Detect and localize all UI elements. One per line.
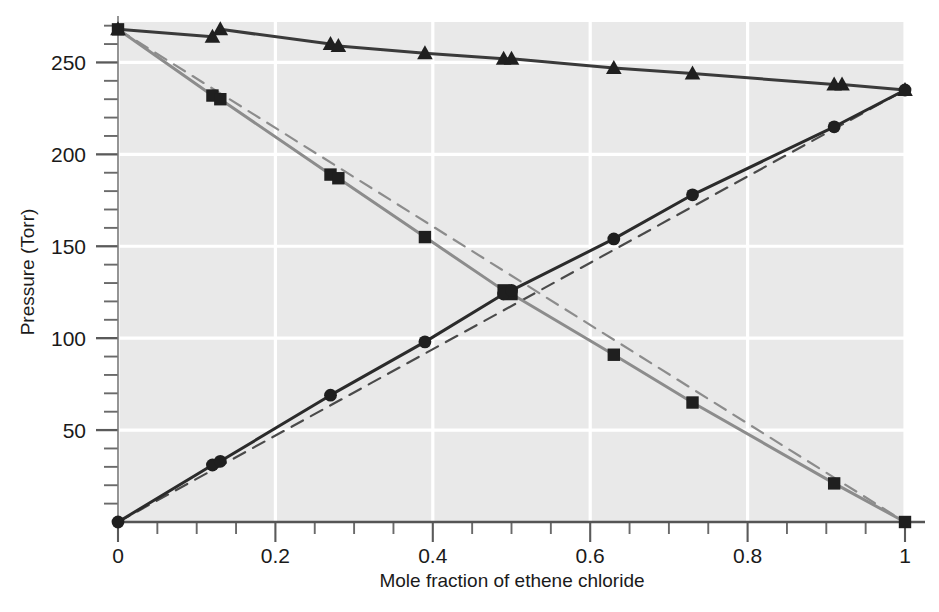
x-tick-label: 0.2 [261, 544, 290, 567]
phase-diagram-svg: 00.20.40.60.81 50100150200250 Mole fract… [0, 0, 939, 612]
y-tick-label: 150 [51, 235, 86, 258]
data-point-marker [332, 172, 344, 184]
x-tick-label: 0 [112, 544, 124, 567]
data-point-marker [214, 455, 227, 468]
x-axis-title: Mole fraction of ethene chloride [379, 570, 644, 591]
data-point-marker [607, 233, 620, 246]
data-point-marker [686, 188, 699, 201]
data-point-marker [828, 120, 841, 133]
x-tick-label: 1 [899, 544, 911, 567]
data-point-marker [419, 335, 432, 348]
plot-background [118, 22, 905, 522]
y-tick-label: 200 [51, 143, 86, 166]
data-point-marker [112, 23, 124, 35]
y-tick-label: 100 [51, 327, 86, 350]
y-tick-label: 250 [51, 51, 86, 74]
x-tick-label: 0.4 [418, 544, 448, 567]
data-point-marker [214, 93, 226, 105]
data-point-marker [112, 516, 125, 529]
y-tick-label: 50 [63, 419, 86, 442]
x-tick-label: 0.6 [576, 544, 605, 567]
chart-figure: 00.20.40.60.81 50100150200250 Mole fract… [0, 0, 939, 612]
data-point-marker [608, 349, 620, 361]
data-point-marker [899, 84, 912, 97]
x-tick-label: 0.8 [733, 544, 762, 567]
data-point-marker [828, 477, 840, 489]
data-point-marker [419, 231, 431, 243]
data-point-marker [686, 396, 698, 408]
y-axis-title: Pressure (Torr) [17, 209, 38, 336]
data-point-marker [505, 284, 518, 297]
data-point-marker [899, 516, 911, 528]
data-point-marker [324, 389, 337, 402]
